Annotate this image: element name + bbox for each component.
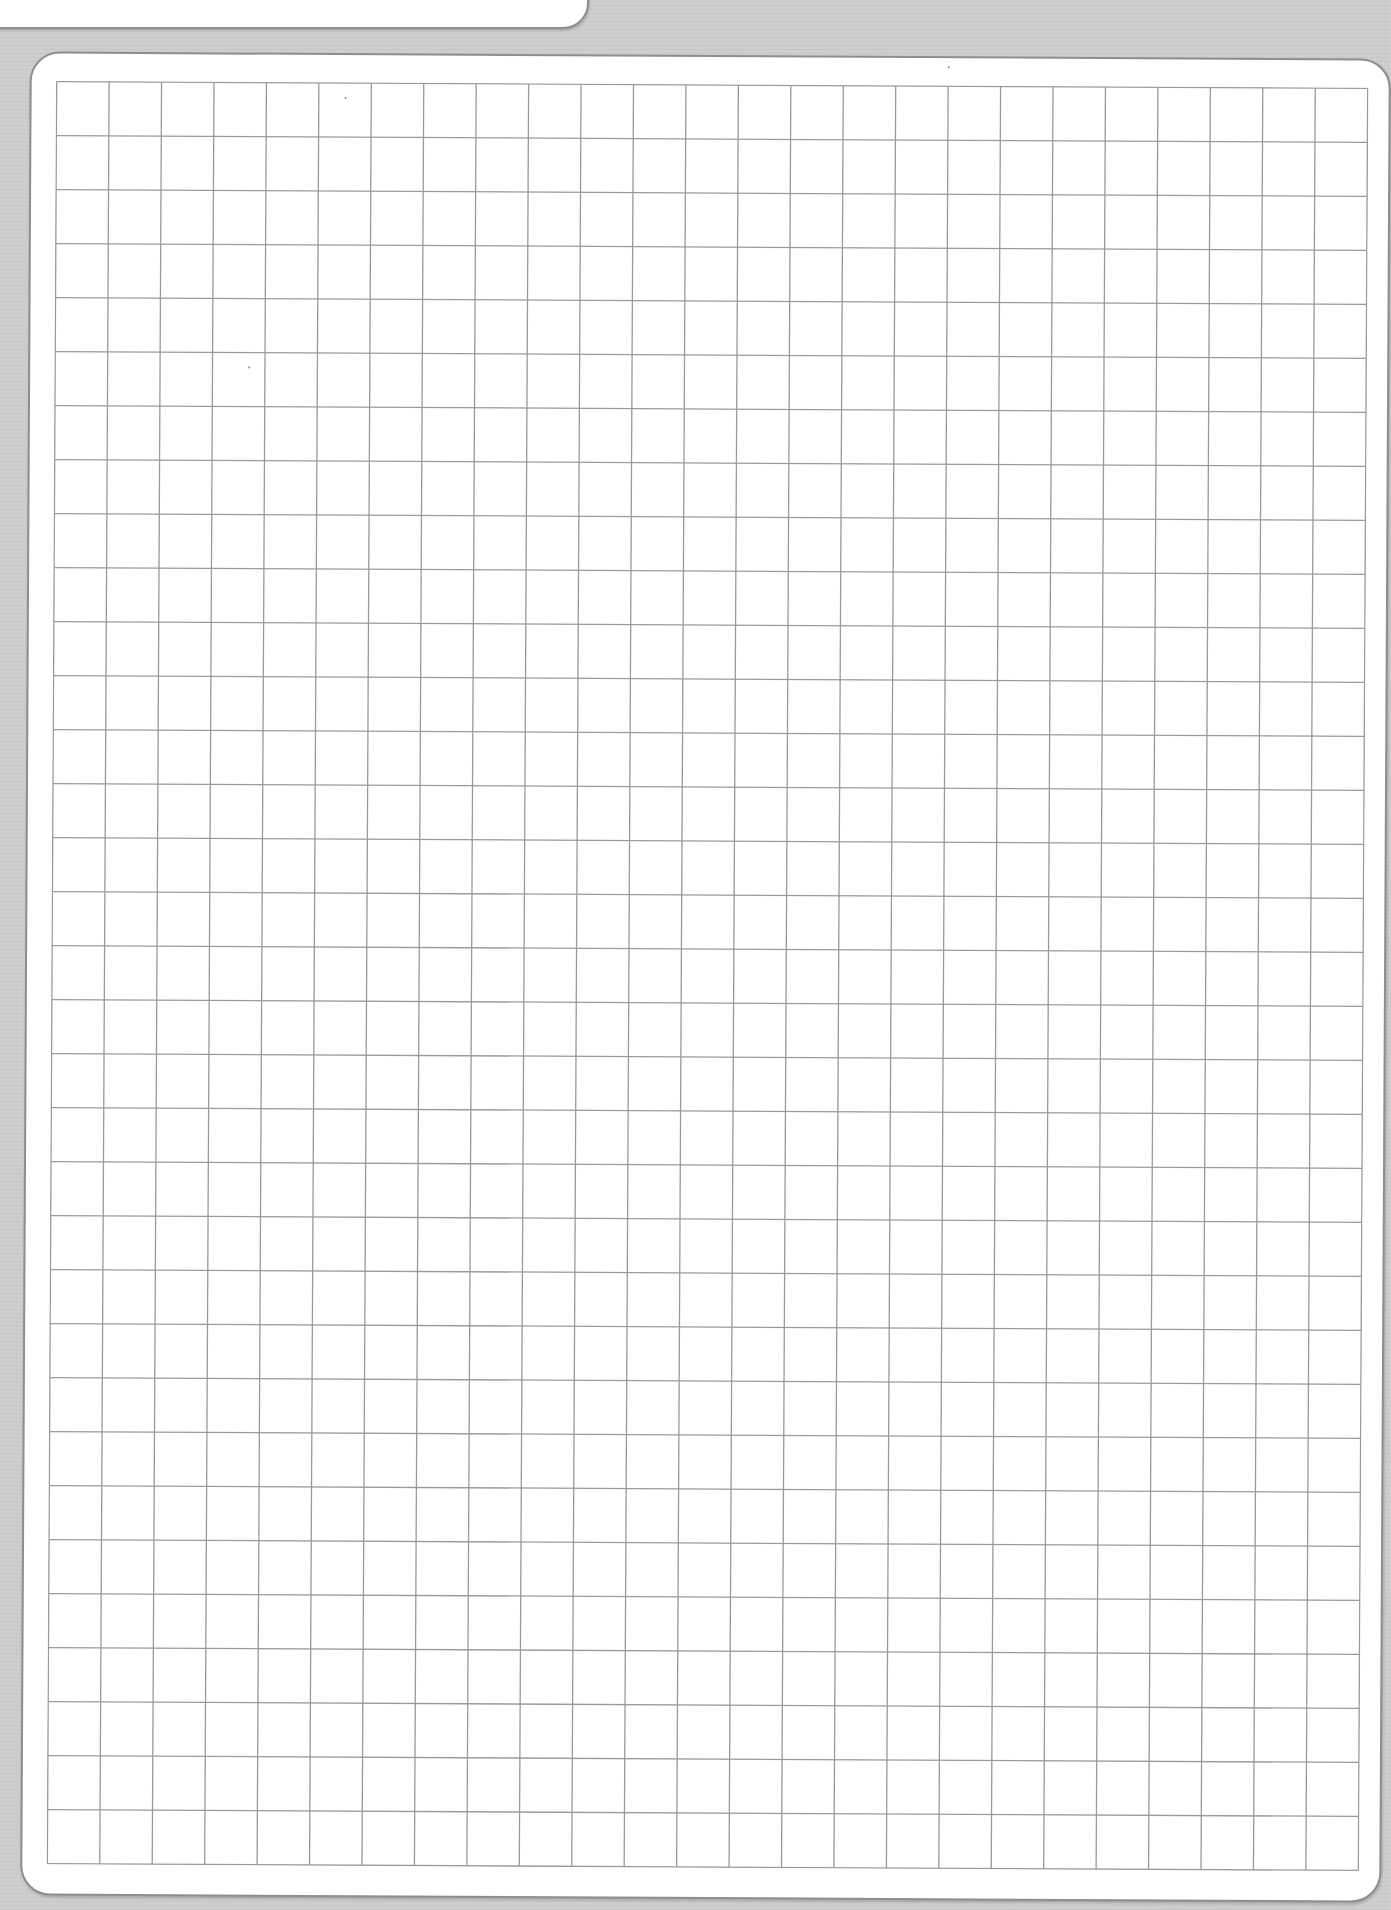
grid-vertical-line [100,82,109,1864]
grid-vertical-line [729,85,738,1867]
grid-vertical-line [362,83,371,1865]
grid-horizontal-line [56,298,1367,305]
grid-horizontal-line [54,676,1365,683]
grid-vertical-line [1096,87,1105,1869]
grid-vertical-line [939,86,948,1868]
grid-horizontal-line [50,1432,1361,1439]
scan-speck [345,97,347,99]
grid-vertical-line [1306,88,1315,1870]
grid-vertical-line [781,85,790,1867]
grid-vertical-line [205,82,214,1864]
grid-horizontal-line [48,1648,1359,1655]
grid-horizontal-line [56,136,1367,143]
grid-vertical-line [624,85,633,1867]
grid-horizontal-line [50,1378,1361,1385]
grid-vertical-line [834,86,843,1868]
scan-speck [248,367,250,369]
grid-vertical-line [677,85,686,1867]
grid-area [46,81,1366,1870]
grid-vertical-line [991,87,1000,1869]
grid-vertical-line [1044,87,1053,1869]
grid-horizontal-line [52,946,1363,953]
grid-vertical-line [1201,88,1210,1870]
grid-horizontal-line [56,190,1367,197]
grid-horizontal-line [54,622,1365,629]
scan-speck [948,66,950,68]
grid-paper-sheet [20,51,1391,1902]
grid-vertical-line [1358,88,1367,1870]
grid-horizontal-line [53,784,1364,791]
grid-vertical-line [47,82,56,1864]
grid-lines [46,81,1368,1872]
grid-horizontal-line [48,1756,1359,1763]
grid-horizontal-line [51,1162,1362,1169]
grid-horizontal-line [52,1054,1363,1061]
grid-vertical-line [1253,88,1262,1870]
grid-horizontal-line [47,1864,1358,1871]
grid-horizontal-line [50,1324,1361,1331]
grid-horizontal-line [49,1486,1360,1493]
grid-horizontal-line [53,730,1364,737]
top-tab-card [0,0,589,29]
grid-horizontal-line [55,352,1366,359]
grid-horizontal-line [55,460,1366,467]
grid-horizontal-line [48,1810,1359,1817]
grid-vertical-line [1149,87,1158,1869]
grid-horizontal-line [55,406,1366,413]
grid-horizontal-line [49,1594,1360,1601]
grid-horizontal-line [50,1270,1361,1277]
grid-horizontal-line [54,514,1365,521]
grid-horizontal-line [54,568,1365,575]
grid-horizontal-line [53,838,1364,845]
grid-horizontal-line [56,244,1367,251]
grid-vertical-line [467,84,476,1866]
grid-vertical-line [257,83,266,1865]
grid-vertical-line [310,83,319,1865]
grid-horizontal-line [52,892,1363,899]
grid-horizontal-line [51,1216,1362,1223]
grid-horizontal-line [51,1108,1362,1115]
grid-horizontal-line [52,1000,1363,1007]
grid-horizontal-line [57,82,1368,89]
grid-vertical-line [152,82,161,1864]
grid-vertical-line [886,86,895,1868]
grid-horizontal-line [48,1702,1359,1709]
grid-vertical-line [414,84,423,1866]
grid-horizontal-line [49,1540,1360,1547]
grid-vertical-line [519,84,528,1866]
grid-vertical-line [572,84,581,1866]
